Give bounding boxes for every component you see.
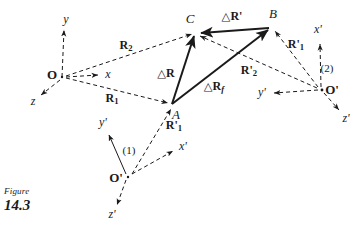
axis-x-prime-1 (132, 151, 173, 174)
origin-label-O-prime-2: O' (325, 83, 339, 96)
delta-triangle-icon: △ (157, 67, 166, 79)
axis-y (62, 30, 64, 77)
point-label-C: C (186, 12, 195, 25)
axis-label-y: y (63, 13, 68, 25)
vector-label-R2-prime-sub: 2 (253, 68, 257, 78)
axis-label-x: x (105, 68, 110, 80)
axis-y-prime-2 (274, 90, 318, 93)
vector-label-R1-prime-A-head: R (166, 118, 175, 132)
axis-label-x-prime-1: x' (179, 140, 187, 152)
vector-label-R2-prime: R'2 (241, 64, 257, 78)
figure-caption: Figure 14.3 (4, 186, 78, 214)
origin-dot-O (61, 76, 63, 78)
vector-label-delta-R-f: △Rf (204, 80, 224, 94)
frame-marker-1: (1) (123, 145, 136, 156)
delta-triangle-icon: △ (222, 10, 231, 22)
axis-x (66, 75, 98, 77)
caption-number: 14.3 (4, 197, 78, 214)
vector-label-R1-prime-A: R'1 (166, 119, 182, 133)
vector-label-R1-sub: 1 (114, 96, 118, 106)
origin-label-O-prime-1: O' (109, 171, 123, 184)
vector-label-R2-head: R (120, 38, 129, 52)
vector-label-R1: R1 (106, 92, 119, 106)
origin-dot-O2 (321, 89, 324, 92)
axis-label-y-prime-2: y' (258, 86, 266, 98)
vector-label-R1-prime-A-sub: 1 (178, 123, 182, 133)
origin-dot-O1 (127, 176, 129, 178)
vector-label-delta-R-head: R (166, 66, 175, 80)
vector-label-delta-R-prime: △R' (222, 10, 243, 22)
frame-marker-2: (2) (321, 63, 334, 74)
vector-label-R2-prime-head: R (241, 63, 250, 77)
vector-label-R1-prime-B: R'1 (288, 38, 304, 52)
axis-label-z-prime-2: z' (342, 112, 349, 124)
vector-label-delta-R: △R (157, 67, 174, 79)
vector-label-R2-sub: 2 (128, 43, 132, 53)
vector-label-R1-prime-B-head: R (288, 37, 297, 51)
axis-label-z: z (31, 95, 36, 107)
origin-label-O: O (47, 68, 57, 81)
vector-label-R2: R2 (120, 39, 133, 53)
dashed-position-vectors (66, 31, 318, 174)
vector-delta-R-prime (201, 28, 269, 33)
axis-label-x-prime-2: x' (314, 23, 322, 35)
caption-word: Figure (4, 186, 78, 196)
fixed-frame-axes (41, 30, 98, 95)
point-label-B: B (269, 7, 277, 20)
vector-label-delta-R-f-sub: f (221, 84, 224, 94)
vector-label-R1-prime-B-sub: 1 (300, 42, 304, 52)
vector-label-delta-R-prime-prime: ' (239, 9, 242, 23)
delta-triangle-icon: △ (204, 80, 213, 92)
vector-delta-R (172, 36, 194, 104)
moving-frame-2-axes (274, 44, 339, 110)
figure-14-3: A B C O O' O' y x z y' x' z' (1) x' y' z… (0, 0, 360, 233)
vector-label-R1-head: R (106, 91, 115, 105)
axis-z (41, 80, 60, 95)
axis-label-z-prime-1: z' (108, 208, 115, 220)
axis-label-y-prime-1: y' (99, 116, 107, 128)
